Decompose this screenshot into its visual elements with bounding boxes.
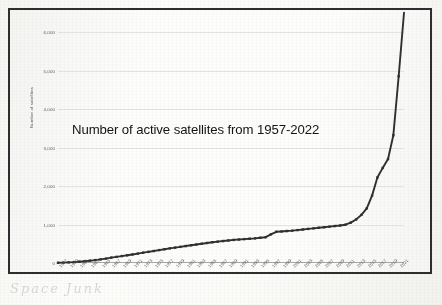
y-tick-1000: 1,000: [44, 222, 56, 227]
y-tick-4000: 4,000: [44, 107, 56, 112]
plot-area: [58, 32, 404, 263]
y-axis-tick-labels: 01,0002,0003,0004,0005,0006,000: [10, 32, 55, 263]
y-axis-title: Number of satellites: [29, 87, 34, 128]
y-tick-5000: 5,000: [44, 68, 56, 73]
handwritten-note: Space Junk: [10, 281, 104, 296]
chart-frame-border: 01,0002,0003,0004,0005,0006,000 Number o…: [8, 8, 432, 274]
y-tick-3000: 3,000: [44, 145, 56, 150]
y-tick-2000: 2,000: [44, 184, 56, 189]
satellite-line-chart: 01,0002,0003,0004,0005,0006,000 Number o…: [10, 10, 430, 272]
y-tick-0: 0: [52, 261, 55, 266]
x-axis-tick-labels: 1957195919611963196519671969197119731975…: [58, 265, 404, 299]
y-tick-6000: 6,000: [44, 30, 56, 35]
chart-title: Number of active satellites from 1957-20…: [72, 122, 319, 137]
data-series-line: [58, 32, 404, 263]
